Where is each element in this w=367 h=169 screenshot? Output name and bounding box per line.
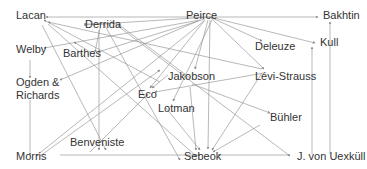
influence-edge [173,20,212,101]
node-kull: Kull [320,36,338,48]
node-deleuze: Deleuze [255,40,295,52]
node-levistrauss: Lévi-Strauss [255,70,317,82]
influence-edge [192,84,270,113]
node-bakhtin: Bakhtin [323,9,360,21]
node-welby: Welby [16,43,47,55]
node-benveniste: Benveniste [70,136,124,148]
influence-edge [190,87,196,150]
node-lacan: Lacan [16,9,46,21]
influence-edge [152,75,168,88]
node-peirce: Peirce [186,9,217,21]
node-morris: Morris [16,150,47,162]
node-ogden-line2: Richards [16,89,60,101]
influence-edge [44,20,200,48]
semiotics-influence-diagram: LacanDerridaPeirceBakhtinWelbyBarthesDel… [0,0,367,169]
node-jakobson: Jakobson [168,70,215,82]
node-derrida: Derrida [85,18,122,30]
influence-edge [208,20,210,149]
influence-edge [210,17,262,41]
node-uexkull: J. von Uexküll [297,150,365,162]
node-eco: Eco [138,88,157,100]
node-lotman: Lotman [158,102,195,114]
influence-edge [195,20,208,69]
influence-edge [213,125,260,152]
node-ogden: Ogden & [16,76,60,88]
node-sebeok: Sebeok [184,150,222,162]
node-buhler: Bühler [270,111,302,123]
node-barthes: Barthes [63,47,101,59]
